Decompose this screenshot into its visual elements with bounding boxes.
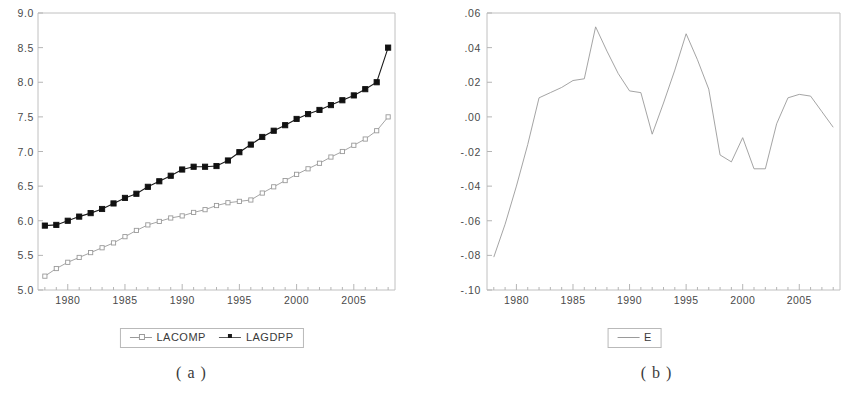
data-point-marker <box>363 137 367 141</box>
data-point-marker <box>283 123 288 128</box>
data-point-marker <box>180 214 184 218</box>
data-point-marker <box>168 173 173 178</box>
data-point-marker <box>260 191 264 195</box>
data-point-marker <box>157 179 162 184</box>
y-tick-label: .00 <box>465 112 481 122</box>
data-point-marker <box>317 107 322 112</box>
data-point-marker <box>374 80 379 85</box>
data-point-marker <box>42 223 47 228</box>
data-point-marker <box>134 191 139 196</box>
data-point-marker <box>317 161 321 165</box>
data-point-marker <box>305 112 310 117</box>
y-tick-label: 7.0 <box>18 147 34 157</box>
data-point-marker <box>329 155 333 159</box>
data-point-marker <box>295 172 299 176</box>
legend-label-lacomp: LACOMP <box>156 332 205 343</box>
data-point-marker <box>375 129 379 133</box>
figure-container: 9.08.58.07.57.06.56.05.55.0 198019851990… <box>0 0 846 404</box>
legend-entry-e: E <box>617 332 652 343</box>
data-point-marker <box>386 115 390 119</box>
data-point-marker <box>54 266 58 270</box>
data-point-marker <box>294 116 299 121</box>
panel-b-legend: E <box>607 328 662 348</box>
legend-label-lagdpp: LAGDPP <box>246 332 294 343</box>
series-line-lagdpp <box>45 48 388 226</box>
data-point-marker <box>65 218 70 223</box>
data-point-marker <box>340 98 345 103</box>
panel-a-caption: ( a ) <box>0 364 403 382</box>
x-tick-label: 2005 <box>787 294 812 306</box>
data-point-marker <box>99 206 104 211</box>
data-point-marker <box>237 150 242 155</box>
x-tick-label: 2005 <box>341 294 366 306</box>
x-tick-label: 1985 <box>112 294 137 306</box>
data-point-marker <box>192 210 196 214</box>
data-point-marker <box>283 178 287 182</box>
series-line-e <box>494 27 833 257</box>
legend-entry-lagdpp: LAGDPP <box>219 332 294 343</box>
x-tick-label: 1995 <box>227 294 252 306</box>
data-point-marker <box>306 167 310 171</box>
data-point-marker <box>271 128 276 133</box>
x-tick-label: 2000 <box>730 294 755 306</box>
data-point-marker <box>328 103 333 108</box>
panel-a-plot-area <box>38 13 395 290</box>
data-point-marker <box>272 185 276 189</box>
y-tick-label: -.08 <box>461 250 482 260</box>
data-point-marker <box>260 134 265 139</box>
data-point-marker <box>145 184 150 189</box>
panel-b-caption: ( b ) <box>445 364 846 382</box>
data-point-marker <box>66 260 70 264</box>
data-point-marker <box>157 219 161 223</box>
data-point-marker <box>352 143 356 147</box>
y-tick-label: 7.5 <box>18 112 34 122</box>
panel-b-axes <box>487 13 840 290</box>
y-tick-label: 8.5 <box>18 43 34 53</box>
data-point-marker <box>89 251 93 255</box>
y-tick-label: .02 <box>465 77 481 87</box>
data-point-marker <box>146 223 150 227</box>
data-point-marker <box>134 228 138 232</box>
data-point-marker <box>249 198 253 202</box>
panel-a-plot-svg <box>38 13 395 290</box>
y-tick-label: -.10 <box>461 285 482 295</box>
panel-b: .06.04.02.00-.02-.04-.06-.08-.10 1980198… <box>423 0 846 404</box>
panel-b-x-axis-labels: 198019851990199520002005 <box>487 294 840 310</box>
y-tick-label: .04 <box>465 43 481 53</box>
data-point-marker <box>77 214 82 219</box>
hollow-square-marker-icon <box>129 333 151 342</box>
x-tick-label: 1990 <box>617 294 642 306</box>
data-point-marker <box>180 167 185 172</box>
data-point-marker <box>226 201 230 205</box>
data-point-marker <box>169 216 173 220</box>
y-tick-label: -.02 <box>461 147 482 157</box>
x-tick-label: 1985 <box>561 294 586 306</box>
data-point-marker <box>111 201 116 206</box>
legend-entry-lacomp: LACOMP <box>129 332 205 343</box>
x-tick-label: 1990 <box>170 294 195 306</box>
data-point-marker <box>237 199 241 203</box>
x-tick-label: 2000 <box>284 294 309 306</box>
y-tick-label: -.06 <box>461 216 482 226</box>
x-tick-label: 1995 <box>674 294 699 306</box>
data-point-marker <box>122 195 127 200</box>
y-tick-label: 6.0 <box>18 216 34 226</box>
data-point-marker <box>214 163 219 168</box>
data-point-marker <box>225 158 230 163</box>
data-point-marker <box>248 142 253 147</box>
y-tick-label: 6.5 <box>18 181 34 191</box>
data-point-marker <box>351 93 356 98</box>
y-tick-label: 5.5 <box>18 250 34 260</box>
data-point-marker <box>88 211 93 216</box>
data-point-marker <box>202 164 207 169</box>
panel-b-plot-area <box>487 13 840 290</box>
data-point-marker <box>100 246 104 250</box>
data-point-marker <box>214 203 218 207</box>
data-point-marker <box>111 241 115 245</box>
panel-a: 9.08.58.07.57.06.56.05.55.0 198019851990… <box>0 0 423 404</box>
panel-b-plot-svg <box>487 13 840 290</box>
data-point-marker <box>340 149 344 153</box>
y-tick-label: -.04 <box>461 181 482 191</box>
x-tick-label: 1980 <box>55 294 80 306</box>
data-point-marker <box>43 274 47 278</box>
